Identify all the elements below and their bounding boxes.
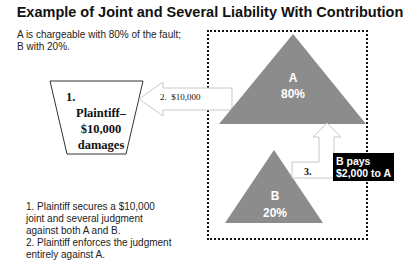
triangle-a-label: A 80% <box>273 70 313 102</box>
step-line: joint and several judgment <box>26 213 216 225</box>
step-line: 1. Plaintiff secures a $10,000 <box>26 201 216 213</box>
plaintiff-number: 1. <box>60 89 142 105</box>
triangle-b-name: B <box>255 188 295 205</box>
triangle-a-name: A <box>273 70 313 86</box>
step-line: against both A and B. <box>26 225 216 237</box>
callout-line: B pays <box>336 155 391 167</box>
plaintiff-line3: damages <box>60 137 142 153</box>
steps-text: 1. Plaintiff secures a $10,000 joint and… <box>26 201 216 261</box>
arrow-2-label: 2. $10,000 <box>160 92 201 102</box>
triangle-a-percent: 80% <box>273 86 313 102</box>
plaintiff-label: 1. Plaintiff– $10,000 damages <box>60 89 142 153</box>
triangle-b-label: B 20% <box>255 188 295 222</box>
contribution-callout: B pays $2,000 to A <box>333 153 394 181</box>
step-line: 2. Plaintiff enforces the judgment <box>26 237 216 249</box>
callout-line: $2,000 to A <box>336 167 391 179</box>
plaintiff-line1: Plaintiff– <box>60 105 142 121</box>
step-line: entirely against A. <box>26 249 216 261</box>
arrow-3-label: 3. <box>304 166 312 177</box>
plaintiff-line2: $10,000 <box>60 121 142 137</box>
triangle-b-percent: 20% <box>255 205 295 222</box>
